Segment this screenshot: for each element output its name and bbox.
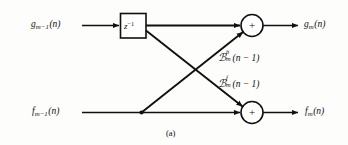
bottom-branch-junction-dot	[139, 110, 143, 114]
bottom-input-label: fm−1(n)	[32, 107, 59, 117]
backward-cross-branch-wire	[142, 32, 244, 113]
bottom-adder-plus-sign: +	[249, 107, 255, 118]
forward-cross-branch-wire	[146, 31, 243, 107]
figure-caption: (a)	[166, 128, 175, 138]
bottom-output-label: fm(n)	[305, 107, 324, 117]
top-adder-plus-sign: +	[249, 20, 255, 31]
top-input-label: gm−1(n)	[31, 20, 61, 30]
top-output-label: gm(n)	[304, 20, 325, 30]
backward-coefficient-label: ℬbm(n − 1)	[218, 51, 260, 64]
lattice-filter-stage-figure: z−1 + + gm−1(n) fm−1(n) gm(n) fm(n) ℬbm(…	[0, 0, 348, 145]
delay-block-label: z−1	[124, 21, 134, 31]
forward-coefficient-label: ℬfm(n − 1)	[218, 77, 260, 90]
